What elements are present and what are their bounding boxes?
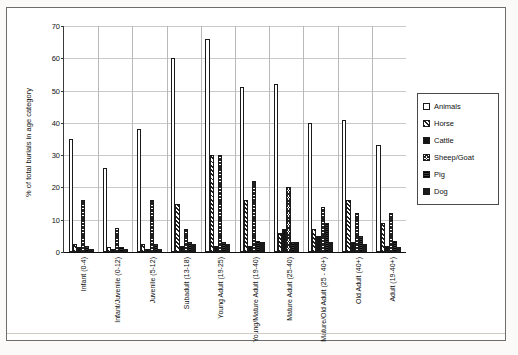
bar (274, 84, 278, 252)
y-axis-label: % of total burials in age category (24, 68, 33, 218)
bar (329, 242, 333, 252)
bar (244, 200, 248, 252)
legend-swatch (423, 120, 430, 127)
x-tick-label: Infant (0-4) (80, 257, 89, 345)
bar (397, 247, 401, 252)
bar-group (132, 26, 166, 252)
bar (218, 155, 222, 252)
legend-item[interactable]: Cattle (423, 132, 494, 149)
x-tick-label: Infant/Juvenile (0-12) (114, 257, 123, 345)
y-tick-label: 0 (56, 248, 60, 257)
legend-item[interactable]: Horse (423, 115, 494, 132)
legend-label: Animals (434, 102, 461, 111)
group-separator (201, 26, 202, 252)
group-separator (132, 26, 133, 252)
group-separator (303, 26, 304, 252)
bar (226, 244, 230, 252)
page-divider (7, 333, 505, 334)
group-separator (167, 26, 168, 252)
x-tick-label: Adult (19-40+) (389, 257, 398, 345)
bar-group (338, 26, 372, 252)
bar (137, 129, 141, 252)
x-tick-label: Young/Mature Adult (19-40) (252, 257, 261, 345)
bar (124, 249, 128, 252)
x-tick-label: Young Adult (19-25) (217, 257, 226, 345)
y-tick-label: 30 (52, 151, 60, 160)
legend-label: Horse (434, 119, 454, 128)
legend-label: Cattle (434, 136, 454, 145)
legend-item[interactable]: Dog (423, 183, 494, 200)
bar (295, 242, 299, 252)
x-tick-label: Mature Adult (25-40) (286, 257, 295, 345)
x-tick-label: Juvenile (5-12) (149, 257, 158, 345)
bar-group (201, 26, 235, 252)
bar-group (98, 26, 132, 252)
bar (103, 168, 107, 252)
bar-group (167, 26, 201, 252)
y-tick-label: 70 (52, 22, 60, 31)
bar-group (64, 26, 98, 252)
y-tick-label: 20 (52, 183, 60, 192)
group-separator (338, 26, 339, 252)
legend-swatch (423, 188, 430, 195)
y-tick-label: 50 (52, 86, 60, 95)
group-separator (269, 26, 270, 252)
bar (192, 244, 196, 252)
y-tick-label: 60 (52, 54, 60, 63)
scan-background: % of total burials in age category 01020… (0, 0, 518, 355)
legend-swatch (423, 103, 430, 110)
bar-group (372, 26, 406, 252)
bar (81, 200, 85, 252)
plot-area: 010203040506070 (63, 26, 406, 253)
group-separator (372, 26, 373, 252)
legend-label: Pig (434, 170, 445, 179)
x-tick-label: Subadult (13-18) (183, 257, 192, 345)
group-separator (235, 26, 236, 252)
legend-swatch (423, 137, 430, 144)
legend-swatch (423, 171, 430, 178)
x-tick-label: Old Adult (40+) (355, 257, 364, 345)
group-separator (98, 26, 99, 252)
x-tick-label: Mature/Old Adult (25 - 40+) (320, 257, 329, 345)
y-tick-label: 10 (52, 215, 60, 224)
legend-item[interactable]: Pig (423, 166, 494, 183)
bar-groups (64, 26, 406, 252)
bar (158, 249, 162, 252)
chart-frame: % of total burials in age category 01020… (6, 7, 506, 341)
bar (260, 242, 264, 252)
bar (69, 139, 73, 252)
bar (89, 249, 93, 252)
bar (363, 244, 367, 252)
bar-group (303, 26, 337, 252)
legend-label: Dog (434, 187, 448, 196)
legend-label: Sheep/Goat (434, 153, 474, 162)
bar-group (235, 26, 269, 252)
bar (210, 155, 214, 252)
y-tick-mark (61, 252, 64, 253)
legend-swatch (423, 154, 430, 161)
legend-item[interactable]: Animals (423, 98, 494, 115)
legend: AnimalsHorseCattleSheep/GoatPigDog (417, 93, 499, 205)
bar-group (269, 26, 303, 252)
legend-item[interactable]: Sheep/Goat (423, 149, 494, 166)
y-tick-label: 40 (52, 118, 60, 127)
